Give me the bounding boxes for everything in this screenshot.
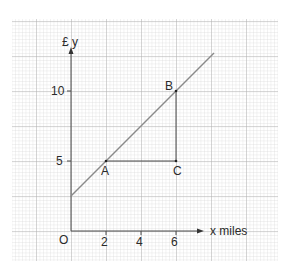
origin-label: O bbox=[59, 233, 68, 247]
ytick-5-label: 5 bbox=[56, 154, 63, 168]
point-a-marker bbox=[105, 160, 108, 163]
point-c-marker bbox=[175, 160, 178, 163]
xtick-6-label: 6 bbox=[171, 235, 178, 249]
y-axis-label: £ y bbox=[62, 35, 78, 49]
graph-chart: £ y x miles O 2 4 6 5 10 A B C bbox=[0, 0, 281, 266]
xtick-2-label: 2 bbox=[101, 235, 108, 249]
point-b-label: B bbox=[165, 79, 173, 93]
point-a-label: A bbox=[101, 164, 109, 178]
point-b-marker bbox=[175, 90, 178, 93]
xtick-4-label: 4 bbox=[136, 235, 143, 249]
ytick-10-label: 10 bbox=[51, 84, 65, 98]
x-axis-label: x miles bbox=[210, 224, 247, 238]
point-c-label: C bbox=[173, 164, 182, 178]
